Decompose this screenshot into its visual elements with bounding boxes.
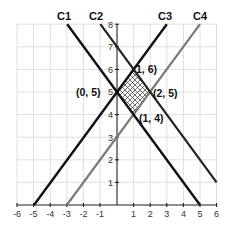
line-c2 (100, 24, 216, 182)
x-tick-labels: -6 -5 -4 -3 -2 -1 1 2 3 4 5 6 (13, 209, 219, 219)
label-c3: C3 (158, 10, 172, 22)
point-label-2-5: (2, 5) (153, 87, 178, 99)
feasible-region (117, 69, 150, 114)
point-label-1-6: 1, 6) (136, 63, 157, 75)
label-c2: C2 (89, 10, 103, 22)
svg-text:-3: -3 (63, 209, 71, 219)
linear-programming-chart: C1 C2 C3 C4 (0, 5) 1, 6) (2, 5) (1, 4) -… (0, 0, 230, 226)
svg-text:5: 5 (108, 87, 113, 97)
svg-text:4: 4 (181, 209, 186, 219)
svg-text:-5: -5 (30, 209, 38, 219)
svg-text:1: 1 (108, 178, 113, 188)
svg-text:2: 2 (108, 155, 113, 165)
svg-text:8: 8 (108, 20, 113, 30)
axes (17, 24, 217, 207)
svg-text:1: 1 (131, 209, 136, 219)
point-label-0-5: (0, 5) (76, 86, 101, 98)
svg-text:-6: -6 (13, 209, 21, 219)
point-label-1-4: (1, 4) (139, 112, 164, 124)
svg-text:3: 3 (108, 133, 113, 143)
label-c1: C1 (57, 10, 71, 22)
svg-text:6: 6 (108, 65, 113, 75)
svg-text:6: 6 (214, 209, 219, 219)
svg-text:5: 5 (197, 209, 202, 219)
svg-text:-4: -4 (46, 209, 54, 219)
svg-text:-2: -2 (79, 209, 87, 219)
svg-text:7: 7 (108, 42, 113, 52)
svg-text:4: 4 (108, 110, 113, 120)
svg-text:-1: -1 (96, 209, 104, 219)
svg-text:3: 3 (164, 209, 169, 219)
label-c4: C4 (193, 10, 208, 22)
svg-text:2: 2 (148, 209, 153, 219)
